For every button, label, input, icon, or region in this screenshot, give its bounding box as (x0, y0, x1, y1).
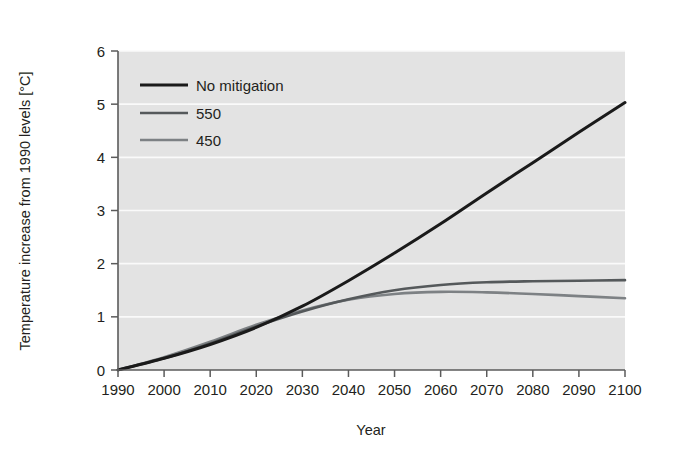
y-tick-label: 3 (97, 202, 105, 219)
y-tick-label: 2 (97, 255, 105, 272)
x-axis-ticks (118, 370, 625, 377)
x-tick-label: 2030 (286, 381, 319, 398)
y-tick-label: 0 (97, 362, 105, 379)
legend-label: 450 (196, 132, 221, 149)
y-tick-label: 1 (97, 308, 105, 325)
temperature-line-chart: 0123456 19902000201020202030204020502060… (0, 0, 675, 450)
x-tick-label: 2090 (562, 381, 595, 398)
x-tick-label: 2050 (378, 381, 411, 398)
x-tick-label: 2010 (193, 381, 226, 398)
y-axis-tick-labels: 0123456 (97, 43, 105, 379)
x-tick-label: 2040 (332, 381, 365, 398)
x-tick-label: 2100 (608, 381, 641, 398)
legend-label: 550 (196, 105, 221, 122)
x-tick-label: 2070 (470, 381, 503, 398)
x-tick-label: 1990 (101, 381, 134, 398)
x-tick-label: 2060 (424, 381, 457, 398)
x-tick-label: 2080 (516, 381, 549, 398)
x-tick-label: 2000 (147, 381, 180, 398)
chart-figure: 0123456 19902000201020202030204020502060… (0, 0, 675, 450)
x-axis-tick-labels: 1990200020102020203020402050206020702080… (101, 381, 641, 398)
y-axis-ticks (111, 51, 118, 370)
y-axis-title: Temperature increase from 1990 levels [°… (17, 71, 33, 350)
x-axis-title: Year (356, 422, 385, 438)
y-tick-label: 6 (97, 43, 105, 60)
y-tick-label: 5 (97, 96, 105, 113)
x-tick-label: 2020 (240, 381, 273, 398)
y-tick-label: 4 (97, 149, 105, 166)
legend-label: No mitigation (196, 77, 284, 94)
